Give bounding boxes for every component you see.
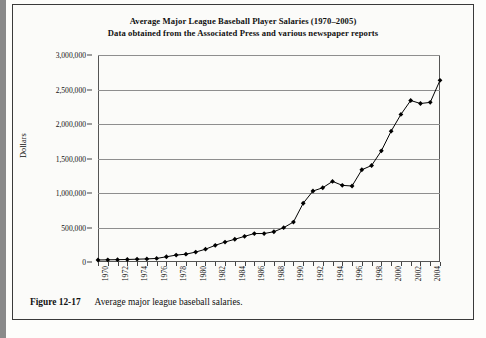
data-point-marker: [271, 229, 276, 234]
y-axis-tick: [87, 89, 92, 90]
x-axis-tick-labels: 1970197219741976197819801982198419861988…: [98, 266, 440, 300]
x-axis-tick-label: 1986: [257, 266, 266, 281]
data-point-marker: [340, 183, 345, 188]
page-edge-shadow: [0, 0, 6, 338]
y-axis-tick-label: 2,500,000: [56, 85, 86, 94]
data-point-marker: [135, 257, 140, 262]
y-axis-tick: [87, 227, 92, 228]
data-point-marker: [232, 237, 237, 242]
x-axis-tick-label: 1982: [218, 266, 227, 281]
y-axis-tick-label: 3,000,000: [56, 51, 86, 60]
chart-title: Average Major League Baseball Player Sal…: [12, 16, 474, 28]
data-point-marker: [291, 220, 296, 225]
figure-caption-label: Figure 12-17: [30, 297, 81, 307]
data-point-marker: [193, 250, 198, 255]
plot-area: [98, 55, 440, 262]
data-point-marker: [252, 231, 257, 236]
data-point-marker: [223, 240, 228, 245]
y-axis-tick-label: 1,500,000: [56, 154, 86, 163]
chart-titles: Average Major League Baseball Player Sal…: [12, 16, 474, 39]
x-axis-tick-label: 2000: [394, 266, 403, 281]
data-point-marker: [154, 256, 159, 261]
figure-caption-text: Average major league baseball salaries.: [95, 297, 243, 307]
x-axis-tick-label: 1990: [296, 266, 305, 281]
y-axis-tick: [87, 193, 92, 194]
x-axis-tick-label: 1976: [160, 266, 169, 281]
data-point-marker: [242, 234, 247, 239]
y-axis-tick-labels: 0500,0001,000,0001,500,0002,000,0002,500…: [20, 55, 92, 262]
y-axis-tick: [87, 124, 92, 125]
x-axis-tick-label: 1972: [121, 266, 130, 281]
salary-line-series: [98, 55, 440, 262]
chart-subtitle: Data obtained from the Associated Press …: [12, 28, 474, 40]
data-point-marker: [262, 231, 267, 236]
x-axis-tick-label: 1978: [179, 266, 188, 281]
y-axis-tick: [87, 55, 92, 56]
y-axis-tick-label: 1,000,000: [56, 189, 86, 198]
data-point-marker: [418, 101, 423, 106]
data-point-marker: [203, 247, 208, 252]
x-axis-tick-label: 1980: [199, 266, 208, 281]
data-point-marker: [213, 243, 218, 248]
x-axis-tick-label: 1974: [140, 266, 149, 281]
data-point-marker: [174, 253, 179, 258]
x-axis-tick-label: 1970: [101, 266, 110, 281]
data-point-marker: [184, 252, 189, 257]
figure-page: Average Major League Baseball Player Sal…: [0, 0, 486, 338]
x-axis-tick-label: 1988: [277, 266, 286, 281]
data-point-marker: [359, 167, 364, 172]
y-axis-tick-label: 500,000: [61, 223, 86, 232]
data-point-marker: [428, 100, 433, 105]
x-axis-tick-label: 1996: [355, 266, 364, 281]
data-point-marker: [281, 225, 286, 230]
figure-caption: Figure 12-17Average major league basebal…: [30, 297, 450, 307]
y-axis-tick: [87, 158, 92, 159]
data-point-marker: [144, 257, 149, 262]
y-axis-tick-label: 2,000,000: [56, 120, 86, 129]
x-axis-tick-label: 1992: [316, 266, 325, 281]
data-point-marker: [164, 254, 169, 259]
x-axis-tick-label: 1984: [238, 266, 247, 281]
data-point-marker: [350, 184, 355, 189]
data-point-marker: [389, 129, 394, 134]
x-axis-tick-label: 1998: [375, 266, 384, 281]
y-axis-tick: [87, 262, 92, 263]
x-axis-tick-label: 2002: [414, 266, 423, 281]
x-axis-tick-label: 2004: [433, 266, 442, 281]
x-axis-tick-label: 1994: [336, 266, 345, 281]
y-axis-tick-label: 0: [82, 258, 86, 267]
